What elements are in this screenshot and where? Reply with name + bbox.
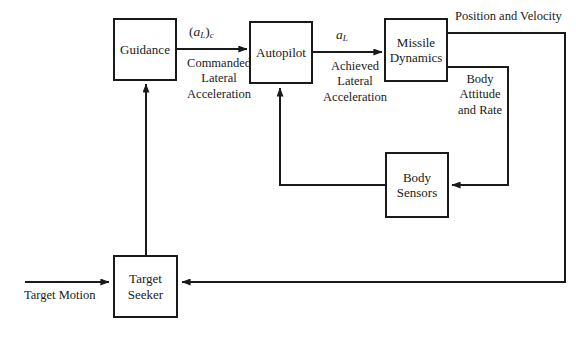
label-commanded-line2: Lateral <box>201 71 236 85</box>
label-body-attitude-and-rate: Body Attitude and Rate <box>451 72 509 118</box>
block-missile-dynamics-label-line1: Missile <box>390 35 443 50</box>
block-autopilot-label: Autopilot <box>256 45 306 60</box>
signal-symbol-commanded-lateral-acceleration: (aL)c <box>189 24 214 40</box>
block-body-sensors[interactable]: Body Sensors <box>385 152 449 218</box>
block-body-sensors-label: Body Sensors <box>397 170 437 201</box>
block-body-sensors-label-line1: Body <box>397 170 437 185</box>
achieved-symbol-subscript-l: L <box>343 33 348 43</box>
label-commanded-line3: Acceleration <box>187 87 251 101</box>
signal-symbol-achieved-lateral-acceleration: aL <box>336 27 348 43</box>
block-guidance-label: Guidance <box>120 42 170 57</box>
block-body-sensors-label-line2: Sensors <box>397 185 437 200</box>
commanded-symbol-subscript-c: c <box>210 30 214 40</box>
block-target-seeker-label-line2: Seeker <box>128 287 163 302</box>
label-commanded-line1: Commanded <box>187 56 251 70</box>
block-target-seeker-label: Target Seeker <box>128 271 163 302</box>
label-target-motion: Target Motion <box>24 288 95 303</box>
label-achieved-line3: Acceleration <box>323 90 387 104</box>
label-commanded-lateral-acceleration: Commanded Lateral Acceleration <box>176 56 262 102</box>
block-target-seeker[interactable]: Target Seeker <box>113 255 178 318</box>
label-body-attitude-line2: Attitude <box>460 87 501 101</box>
label-achieved-line2: Lateral <box>337 74 372 88</box>
block-diagram: Guidance Autopilot Missile Dynamics Body… <box>0 0 576 340</box>
achieved-symbol-a: a <box>336 27 343 42</box>
label-body-attitude-line3: and Rate <box>458 103 502 117</box>
label-position-and-velocity: Position and Velocity <box>455 9 562 24</box>
block-guidance[interactable]: Guidance <box>113 18 177 81</box>
label-body-attitude-line1: Body <box>466 72 493 86</box>
block-target-seeker-label-line1: Target <box>128 271 163 286</box>
label-achieved-lateral-acceleration: Achieved Lateral Acceleration <box>312 59 398 105</box>
label-achieved-line1: Achieved <box>331 59 379 73</box>
